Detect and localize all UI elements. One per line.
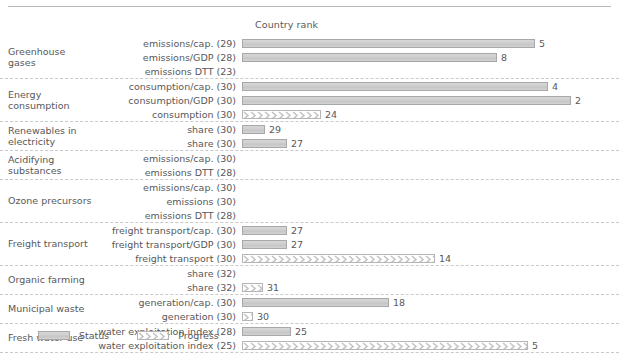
chart-row[interactable]: emissions (30) (96, 194, 619, 208)
group-label: Greenhouse gases (0, 46, 96, 69)
row-label: share (32) (96, 268, 242, 279)
status-bar[interactable] (242, 53, 497, 62)
row-label: emissions DTT (23) (96, 66, 242, 77)
chart-group: Greenhouse gasesemissions/cap. (29)5emis… (0, 36, 619, 78)
chart-row[interactable]: consumption (30)24 (96, 107, 619, 121)
row-bar-area (242, 266, 619, 280)
country-rank-chart: Country rank Greenhouse gasesemissions/c… (0, 0, 619, 356)
chart-row[interactable]: consumption/cap. (30)4 (96, 79, 619, 93)
legend-item-progress[interactable]: Progress (137, 330, 219, 341)
chart-row[interactable]: share (32) (96, 266, 619, 280)
row-label: emissions/cap. (29) (96, 38, 242, 49)
row-bar-area (242, 165, 619, 179)
chart-row[interactable]: generation (30)30 (96, 309, 619, 323)
bar-value-label: 2 (575, 96, 581, 105)
chart-row[interactable]: share (32)31 (96, 280, 619, 294)
progress-bar[interactable] (242, 312, 253, 321)
chart-row[interactable]: freight transport/cap. (30)27 (96, 223, 619, 237)
status-bar[interactable] (242, 96, 571, 105)
bar-value-label: 5 (539, 39, 545, 48)
row-bar-area (242, 194, 619, 208)
row-bar-area: 2 (242, 93, 619, 107)
legend-label: Progress (178, 330, 219, 341)
status-bar[interactable] (242, 125, 265, 134)
row-label: consumption (30) (96, 109, 242, 120)
bar-value-label: 31 (267, 283, 279, 292)
chart-row[interactable]: emissions DTT (28) (96, 165, 619, 179)
chart-group-inner: Renewables in electricityshare (30)29sha… (0, 122, 619, 150)
status-bar[interactable] (242, 226, 287, 235)
row-bar-area (242, 151, 619, 165)
group-label: Ozone precursors (0, 195, 96, 207)
chart-group: Ozone precursorsemissions/cap. (30)emiss… (0, 179, 619, 222)
row-bar-area: 4 (242, 79, 619, 93)
row-bar-area: 31 (242, 280, 619, 294)
status-bar[interactable] (242, 327, 291, 336)
row-bar-area: 27 (242, 223, 619, 237)
chart-row[interactable]: emissions DTT (28) (96, 208, 619, 222)
status-bar[interactable] (242, 139, 287, 148)
row-bar-area (242, 64, 619, 78)
group-label: Freight transport (0, 238, 96, 250)
chart-group-inner: Acidifying substancesemissions/cap. (30)… (0, 151, 619, 179)
legend-progress-swatch-icon (137, 331, 169, 340)
progress-bar[interactable] (242, 283, 263, 292)
row-label: share (32) (96, 282, 242, 293)
group-rows: consumption/cap. (30)4consumption/GDP (3… (96, 79, 619, 121)
chevron-pattern-icon (243, 255, 434, 262)
row-label: generation/cap. (30) (96, 297, 242, 308)
row-label: water exploitation index (25) (96, 340, 242, 351)
chart-legend: StatusProgress (0, 330, 247, 341)
row-bar-area: 27 (242, 237, 619, 251)
legend-status-swatch-icon (38, 331, 70, 340)
bar-value-label: 27 (291, 240, 303, 249)
row-label: emissions DTT (28) (96, 167, 242, 178)
row-bar-area: 18 (242, 295, 619, 309)
group-rows: generation/cap. (30)18generation (30)30 (96, 295, 619, 323)
chart-row[interactable]: consumption/GDP (30)2 (96, 93, 619, 107)
chart-group: Acidifying substancesemissions/cap. (30)… (0, 150, 619, 179)
group-label: Acidifying substances (0, 154, 96, 177)
chart-row[interactable]: share (30)29 (96, 122, 619, 136)
row-label: share (30) (96, 138, 242, 149)
row-label: emissions (30) (96, 196, 242, 207)
group-rows: emissions/cap. (30)emissions (30)emissio… (96, 180, 619, 222)
row-bar-area: 29 (242, 122, 619, 136)
chart-group-inner: Municipal wastegeneration/cap. (30)18gen… (0, 295, 619, 323)
legend-label: Status (79, 330, 109, 341)
group-rows: emissions/cap. (30)emissions DTT (28) (96, 151, 619, 179)
bar-value-label: 25 (295, 327, 307, 336)
row-label: consumption/cap. (30) (96, 81, 242, 92)
bar-value-label: 27 (291, 139, 303, 148)
chart-group: Energy consumptionconsumption/cap. (30)4… (0, 78, 619, 121)
row-bar-area: 8 (242, 50, 619, 64)
row-bar-area: 25 (242, 324, 619, 338)
chart-row[interactable]: emissions/cap. (30) (96, 151, 619, 165)
column-header-country-rank: Country rank (255, 19, 318, 30)
chart-group: Organic farmingshare (32)share (32)31 (0, 265, 619, 294)
chart-row[interactable]: emissions/cap. (30) (96, 180, 619, 194)
status-bar[interactable] (242, 39, 535, 48)
progress-bar[interactable] (242, 254, 435, 263)
status-bar[interactable] (242, 82, 548, 91)
top-divider (8, 6, 611, 7)
row-label: freight transport/cap. (30) (96, 225, 242, 236)
chart-row[interactable]: emissions/GDP (28)8 (96, 50, 619, 64)
status-bar[interactable] (242, 298, 389, 307)
bar-value-label: 24 (325, 110, 337, 119)
chart-row[interactable]: emissions DTT (23) (96, 64, 619, 78)
chart-group-inner: Greenhouse gasesemissions/cap. (29)5emis… (0, 36, 619, 78)
chart-row[interactable]: freight transport/GDP (30)27 (96, 237, 619, 251)
row-bar-area (242, 208, 619, 222)
chart-row[interactable]: share (30)27 (96, 136, 619, 150)
chart-row[interactable]: emissions/cap. (29)5 (96, 36, 619, 50)
progress-bar[interactable] (242, 341, 528, 350)
progress-bar[interactable] (242, 110, 321, 119)
group-label: Municipal waste (0, 303, 96, 315)
row-bar-area: 5 (242, 36, 619, 50)
bar-value-label: 4 (552, 82, 558, 91)
chart-row[interactable]: generation/cap. (30)18 (96, 295, 619, 309)
legend-item-status[interactable]: Status (38, 330, 109, 341)
chart-row[interactable]: freight transport (30)14 (96, 251, 619, 265)
status-bar[interactable] (242, 240, 287, 249)
